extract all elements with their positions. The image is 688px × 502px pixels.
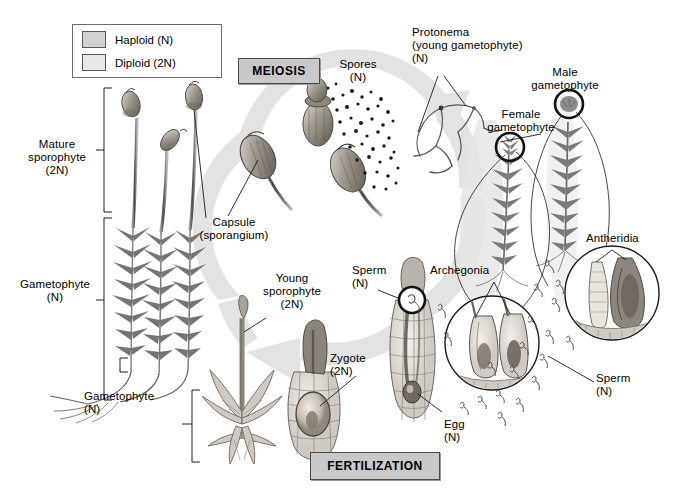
sperm-highlight-circle <box>399 287 425 313</box>
label-sperm-left: Sperm (N) <box>352 264 400 290</box>
antheridia-detail-inset <box>562 246 668 344</box>
label-antheridia: Antheridia <box>586 232 664 245</box>
label-gametophyte-bottom: Gametophyte (N) <box>84 390 184 416</box>
diploid-label: Diploid (2N) <box>115 57 176 69</box>
legend-box: Haploid (N) Diploid (2N) <box>72 24 222 78</box>
young-sporophyte-illustration <box>202 295 282 464</box>
label-male-gametophyte: Male gametophyte <box>524 66 606 92</box>
label-female-gametophyte: Female gametophyte <box>478 108 564 134</box>
fertilization-stage-box: FERTILIZATION <box>310 452 440 480</box>
label-egg: Egg (N) <box>444 418 486 444</box>
meiosis-stage-box: MEIOSIS <box>238 58 320 84</box>
label-gametophyte-left: Gametophyte (N) <box>12 278 98 304</box>
label-spores: Spores (N) <box>332 58 384 84</box>
legend-row-haploid: Haploid (N) <box>82 31 173 48</box>
legend-row-diploid: Diploid (2N) <box>82 54 176 71</box>
label-young-sporophyte: Young sporophyte (2N) <box>248 272 336 312</box>
diploid-swatch <box>82 54 106 71</box>
haploid-swatch <box>82 31 106 48</box>
label-protonema: Protonema (young gametophyte) (N) <box>412 26 562 66</box>
archegonia-detail-inset <box>438 284 548 396</box>
label-mature-sporophyte: Mature sporophyte (2N) <box>16 138 98 178</box>
label-archegonia: Archegonia <box>430 264 506 277</box>
haploid-label: Haploid (N) <box>115 34 173 46</box>
moss-life-cycle-diagram: Haploid (N) Diploid (2N) MEIOSIS FERTILI… <box>0 0 688 502</box>
label-capsule: Capsule (sporangium) <box>186 216 282 242</box>
label-sperm-right: Sperm (N) <box>596 372 644 398</box>
label-zygote: Zygote (2N) <box>330 352 386 378</box>
